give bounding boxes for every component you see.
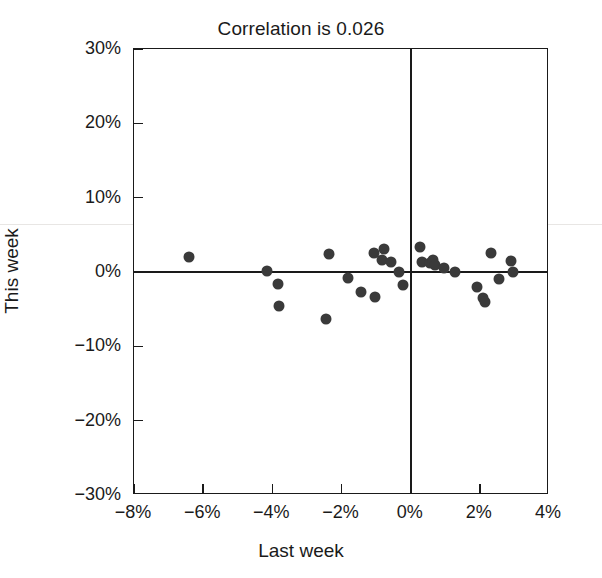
data-point bbox=[324, 249, 335, 260]
data-point bbox=[274, 300, 285, 311]
y-tick-label: −10% bbox=[74, 335, 121, 356]
data-point bbox=[480, 297, 491, 308]
data-point bbox=[385, 256, 396, 267]
x-tick-mark bbox=[272, 484, 274, 493]
data-point bbox=[378, 244, 389, 255]
x-tick-label: 2% bbox=[466, 502, 492, 523]
data-point bbox=[493, 274, 504, 285]
data-point bbox=[414, 242, 425, 253]
x-tick-mark bbox=[134, 484, 135, 493]
x-tick-label: −6% bbox=[184, 502, 221, 523]
x-tick-mark bbox=[341, 484, 343, 493]
data-point bbox=[183, 251, 194, 262]
y-tick-label: 0% bbox=[95, 261, 121, 282]
x-tick-mark bbox=[479, 484, 481, 493]
zero-line-horizontal bbox=[134, 271, 547, 273]
data-point bbox=[320, 313, 331, 324]
data-point bbox=[439, 262, 450, 273]
y-tick-label: −20% bbox=[74, 409, 121, 430]
y-tick-mark bbox=[134, 197, 143, 199]
data-point bbox=[485, 248, 496, 259]
data-point bbox=[398, 279, 409, 290]
y-tick-mark bbox=[134, 420, 143, 422]
data-point bbox=[342, 272, 353, 283]
x-tick-label: 4% bbox=[535, 502, 561, 523]
x-axis-title: Last week bbox=[0, 540, 602, 562]
y-tick-mark bbox=[134, 346, 143, 348]
y-tick-label: 20% bbox=[85, 112, 121, 133]
plot-area bbox=[133, 48, 548, 494]
x-tick-mark bbox=[202, 484, 204, 493]
data-point bbox=[505, 256, 516, 267]
plot-inner bbox=[134, 49, 547, 493]
scatter-chart: Correlation is 0.026 This week Last week… bbox=[0, 0, 602, 578]
y-axis-title: This week bbox=[1, 228, 23, 314]
data-point bbox=[508, 266, 519, 277]
y-tick-mark bbox=[134, 49, 143, 50]
data-point bbox=[370, 291, 381, 302]
data-point bbox=[262, 265, 273, 276]
x-tick-label: −2% bbox=[322, 502, 359, 523]
y-tick-label: 30% bbox=[85, 38, 121, 59]
y-tick-label: 10% bbox=[85, 186, 121, 207]
data-point bbox=[273, 278, 284, 289]
data-point bbox=[356, 287, 367, 298]
x-tick-label: −8% bbox=[115, 502, 152, 523]
x-tick-label: 0% bbox=[397, 502, 423, 523]
data-point bbox=[394, 266, 405, 277]
data-point bbox=[449, 266, 460, 277]
y-tick-mark bbox=[134, 123, 143, 125]
x-tick-label: −4% bbox=[253, 502, 290, 523]
data-point bbox=[472, 282, 483, 293]
